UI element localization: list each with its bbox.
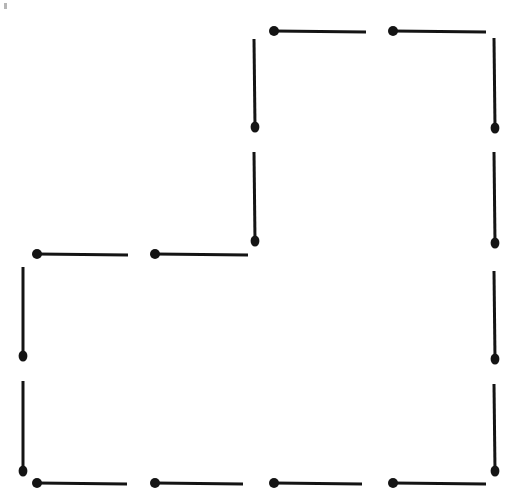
match-head [491,465,500,476]
match-body [37,254,128,255]
match-body [274,483,362,484]
match-head [269,478,279,488]
match-head [19,465,28,476]
match-head [269,26,279,36]
match-head [32,478,42,488]
match-head [491,353,500,364]
match-body [254,152,255,241]
match-body [494,152,495,243]
match-body [393,31,486,32]
match-head [19,350,28,361]
match-body [393,483,486,484]
puzzle-canvas [0,0,514,501]
match-body [155,483,243,484]
match-body [494,38,495,128]
match-body [494,384,495,471]
match-head [251,235,260,246]
match-head [150,478,160,488]
match-head [388,478,398,488]
match-head [491,237,500,248]
match-head [251,121,260,132]
canvas-background [0,0,514,501]
artifacts-layer [4,3,7,9]
match-head [388,26,398,36]
match-body [254,39,255,127]
corner-speck [4,3,7,9]
match-body [155,254,248,255]
match-body [494,271,495,359]
match-head [150,249,160,259]
match-body [274,31,366,32]
match-body [37,483,127,484]
match-head [32,249,42,259]
matchstick-figure [0,0,514,501]
match-head [491,122,500,133]
